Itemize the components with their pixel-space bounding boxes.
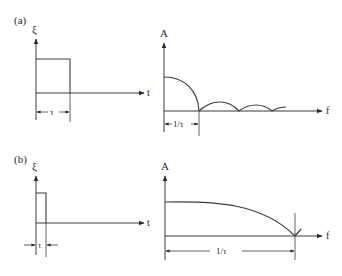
- tau-label: τ: [50, 107, 54, 117]
- sinc-main-lobe-wide: [165, 202, 295, 236]
- t-axis-label: t: [147, 217, 150, 228]
- panel-a: (a) ξ t τ A f 1/τ: [14, 14, 330, 136]
- a-axis-label: A: [160, 27, 168, 39]
- t-axis-label: t: [147, 87, 150, 98]
- a-axis-label: A: [161, 160, 169, 172]
- wide-pulse: [36, 59, 70, 93]
- sinc-side-lobe-2: [239, 105, 272, 111]
- f-axis-label: f: [326, 230, 330, 241]
- sinc-tail-tick: [295, 229, 301, 236]
- panel-b-spectrum-plot: A f 1/τ: [161, 160, 330, 260]
- panel-a-spectrum-plot: A f 1/τ: [160, 27, 330, 136]
- f-axis-label: f: [326, 105, 330, 116]
- panel-a-tag: (a): [14, 14, 27, 27]
- panel-b: (b) ξ t τ A f 1/τ: [14, 153, 330, 260]
- xi-axis-label: ξ: [32, 160, 37, 173]
- sinc-side-lobe-1: [199, 102, 239, 111]
- sinc-main-lobe: [164, 77, 199, 111]
- sinc-tail: [272, 107, 286, 111]
- inv-tau-label: 1/τ: [173, 119, 184, 129]
- tau-label: τ: [38, 241, 42, 250]
- panel-b-tag: (b): [14, 153, 27, 166]
- pulse-spectrum-diagram: (a) ξ t τ A f 1/τ: [0, 0, 342, 276]
- panel-a-time-plot: ξ t τ: [32, 23, 150, 122]
- inv-tau-label: 1/τ: [216, 246, 227, 256]
- panel-b-time-plot: ξ t τ: [24, 160, 150, 257]
- narrow-pulse: [36, 193, 46, 223]
- xi-axis-label: ξ: [32, 23, 37, 36]
